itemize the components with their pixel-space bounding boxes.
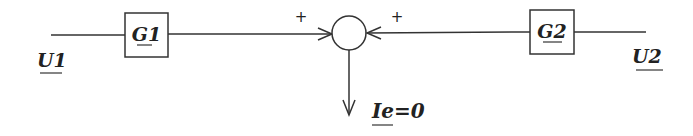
block-diagram: G1 + + G2 U1 U2 Ie=0 bbox=[0, 0, 693, 136]
g2-output-line bbox=[367, 32, 530, 33]
input-u1-label: U1 bbox=[37, 49, 67, 71]
plus-sign-right: + bbox=[391, 8, 404, 26]
input-u2-label: U2 bbox=[632, 45, 662, 67]
plus-sign-left: + bbox=[295, 8, 308, 26]
block-g2-label: G2 bbox=[537, 20, 566, 42]
output-ie-label: Ie=0 bbox=[371, 99, 425, 123]
summing-junction bbox=[332, 16, 366, 50]
block-g1-label: G1 bbox=[132, 23, 161, 45]
